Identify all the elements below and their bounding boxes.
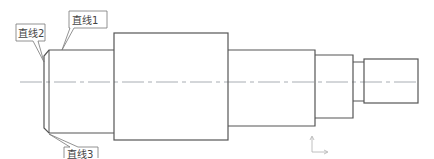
coordinate-axes-icon xyxy=(310,136,328,154)
callout-line1[interactable]: 直线1 xyxy=(62,11,107,50)
callout-line2[interactable]: 直线2 xyxy=(16,24,45,62)
segment-journal[interactable] xyxy=(228,50,315,126)
shaft-outline xyxy=(44,33,418,140)
shaft-drawing: 直线1 直线2 直线3 xyxy=(0,0,434,159)
segment-collar[interactable] xyxy=(114,33,228,140)
callout-line3-label: 直线3 xyxy=(67,148,93,159)
segment-chamfered-end[interactable] xyxy=(44,50,114,133)
segment-end-shaft[interactable] xyxy=(364,59,418,103)
callout-line1-label: 直线1 xyxy=(72,14,98,26)
callout-line2-label: 直线2 xyxy=(18,27,44,39)
segment-step[interactable] xyxy=(315,55,353,118)
callout-line3[interactable]: 直线3 xyxy=(49,134,98,159)
